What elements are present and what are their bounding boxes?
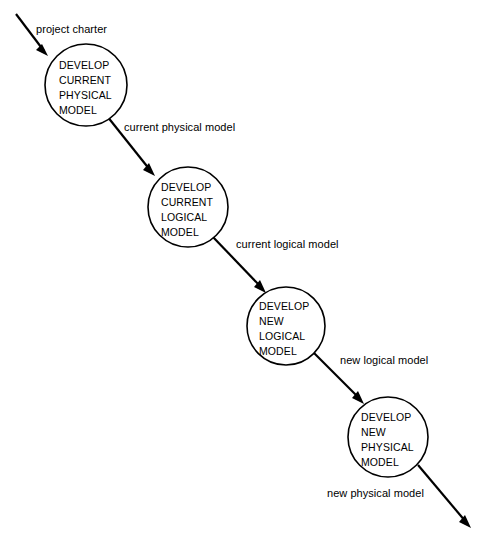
process-develop-current-physical-model[interactable]: DEVELOP CURRENT PHYSICAL MODEL — [45, 44, 127, 126]
process-3-line-4: MODEL — [259, 345, 297, 357]
process-develop-current-logical-model[interactable]: DEVELOP CURRENT LOGICAL MODEL — [148, 167, 228, 247]
process-1-line-4: MODEL — [59, 104, 97, 116]
flow-label-new-logical-model: new logical model — [340, 354, 428, 366]
process-4-line-3: PHYSICAL — [361, 441, 414, 453]
arrow-head-project-charter — [36, 44, 48, 56]
flow-label-current-logical-model: current logical model — [236, 238, 339, 250]
process-2-line-1: DEVELOP — [161, 181, 211, 193]
process-1-line-1: DEVELOP — [59, 59, 109, 71]
process-4-line-2: NEW — [361, 426, 386, 438]
flow-current-logical-model: current logical model — [212, 236, 339, 293]
flow-new-logical-model: new logical model — [312, 351, 428, 404]
flow-label-new-physical-model: new physical model — [327, 487, 424, 499]
flow-arrow-new-physical-model — [418, 465, 466, 522]
process-2-line-2: CURRENT — [161, 196, 214, 208]
process-develop-new-physical-model[interactable]: DEVELOP NEW PHYSICAL MODEL — [348, 397, 428, 477]
diagram-canvas: project charter current physical model c… — [0, 0, 490, 548]
flow-current-physical-model: current physical model — [107, 116, 235, 176]
process-4-line-1: DEVELOP — [361, 411, 411, 423]
process-3-line-2: NEW — [259, 315, 284, 327]
data-flow-diagram: project charter current physical model c… — [0, 0, 490, 548]
process-2-line-3: LOGICAL — [161, 211, 207, 223]
process-develop-new-logical-model[interactable]: DEVELOP NEW LOGICAL MODEL — [247, 287, 325, 365]
process-3-line-3: LOGICAL — [259, 330, 305, 342]
process-3-line-1: DEVELOP — [259, 300, 309, 312]
process-1-line-2: CURRENT — [59, 74, 112, 86]
process-2-line-4: MODEL — [161, 226, 199, 238]
flow-label-current-physical-model: current physical model — [124, 121, 235, 133]
process-1-line-3: PHYSICAL — [59, 89, 112, 101]
flow-label-project-charter: project charter — [36, 23, 107, 35]
process-4-line-4: MODEL — [361, 456, 399, 468]
